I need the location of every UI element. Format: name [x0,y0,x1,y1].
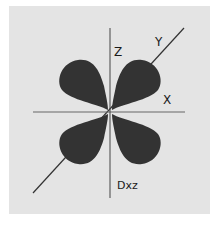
y-axis-label: Y [155,36,162,48]
lobe-bottom-left [59,114,108,164]
orbital-label: Dxz [117,180,138,191]
x-axis-label: X [163,94,171,106]
lobe-top-right [112,60,161,110]
lobe-bottom-right [112,114,161,164]
y-axis [33,28,184,193]
lobe-top-left [59,60,108,110]
z-axis-label: Z [114,46,122,58]
orbital-diagram [0,0,217,227]
